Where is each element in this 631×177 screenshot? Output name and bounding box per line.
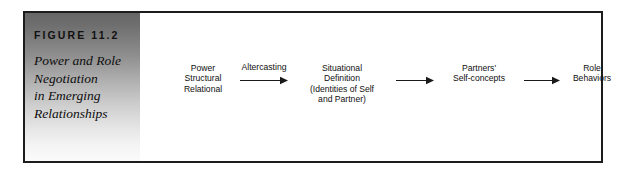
arrow-right-icon [396,76,434,85]
figure-caption-panel: FIGURE 11.2 Power and Role Negotiation i… [25,13,140,161]
figure-number-label: FIGURE 11.2 [34,29,132,41]
figure-frame: FIGURE 11.2 Power and Role Negotiation i… [23,11,603,163]
figure-title: Power and Role Negotiation in Emerging R… [34,52,132,122]
figure-title-line-4: Relationships [34,105,132,123]
flow-node-power-line-3: Relational [166,84,240,94]
flow-arrow-2 [396,76,434,85]
flow-node-situational-definition: Situational Definition (Identities of Se… [286,63,398,105]
flow-node-role-behaviors: Role Behaviors [558,63,626,84]
flow-node-partners-line-1: Partners' [432,63,526,73]
figure-title-line-1: Power and Role [34,52,132,70]
arrow-right-icon [524,76,560,85]
figure-title-line-2: Negotiation [34,70,132,88]
flow-node-role-line-2: Behaviors [558,73,626,83]
flow-node-situational-line-4: and Partner) [286,94,398,104]
flow-node-partners-line-2: Self-concepts [432,73,526,83]
flow-arrow-1 [240,76,288,85]
flow-node-situational-line-1: Situational [286,63,398,73]
flow-node-role-line-1: Role [558,63,626,73]
flow-node-power-line-2: Structural [166,73,240,83]
flow-node-situational-line-3: (Identities of Self [286,84,398,94]
figure-title-line-3: in Emerging [34,87,132,105]
flow-node-situational-line-2: Definition [286,73,398,83]
flow-node-partners-self-concepts: Partners' Self-concepts [432,63,526,84]
flow-diagram: Power Structural Relational Altercasting… [140,13,601,161]
flow-arrow-3 [524,76,560,85]
arrow-right-icon [240,76,288,85]
